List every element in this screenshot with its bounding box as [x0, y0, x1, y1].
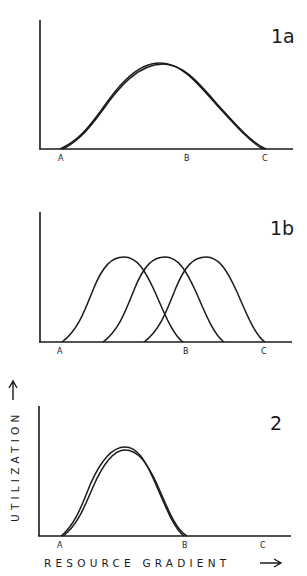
panel-1a-tick-a: A	[58, 154, 64, 163]
panel-1b-curve-1	[62, 257, 183, 342]
y-axis-title-group: UTILIZATION	[9, 381, 21, 522]
panel-1b-curve-2	[103, 257, 224, 342]
panel-1b-curve-3	[144, 257, 265, 342]
panel-1b-tick-c: C	[261, 347, 267, 356]
panel-1a-curve-2	[63, 64, 266, 149]
x-axis-title: RESOURCE GRADIENT	[44, 557, 230, 569]
panel-1b-tick-b: B	[183, 347, 189, 356]
y-axis-arrow-icon	[9, 381, 17, 400]
panel-1b-label: 1b	[270, 217, 294, 239]
panel-1a-tick-c: C	[262, 154, 268, 163]
panel-2-tick-c: C	[260, 541, 266, 550]
niche-overlap-figure: 1a A B C 1b A B C 2 A B C UTILIZATION RE…	[0, 0, 307, 576]
panel-2-curve-1	[61, 447, 184, 536]
panel-1a-curve-1	[60, 63, 263, 149]
panel-2-tick-a: A	[57, 541, 63, 550]
panel-1b-tick-a: A	[57, 347, 63, 356]
panel-1a-tick-b: B	[184, 154, 190, 163]
panel-2-tick-b: B	[182, 541, 188, 550]
x-axis-arrow-icon	[260, 559, 281, 567]
panel-1b: 1b A B C	[39, 212, 294, 356]
panel-2: 2 A B C	[38, 406, 291, 550]
panel-2-curve-2	[63, 450, 187, 536]
panel-1a: 1a A B C	[39, 20, 295, 163]
panel-1a-label: 1a	[271, 25, 295, 47]
x-axis-title-group: RESOURCE GRADIENT	[44, 557, 281, 569]
y-axis-title: UTILIZATION	[9, 410, 21, 522]
panel-2-label: 2	[270, 412, 282, 434]
